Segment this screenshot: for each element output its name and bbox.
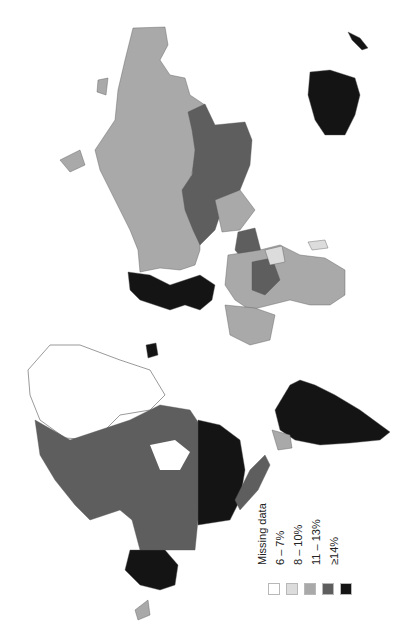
region-scandinavia [60, 150, 85, 172]
region-africa [225, 245, 345, 310]
region-madagascar [308, 240, 328, 250]
region-iceland [146, 343, 158, 358]
region-australia [308, 70, 360, 135]
legend-label-8-10: 8 – 10% [291, 525, 305, 565]
legend-swatch-11-13 [322, 583, 334, 595]
region-usa [198, 420, 245, 525]
region-europe [128, 272, 215, 310]
legend-label-11-13: 11 – 13% [309, 519, 323, 565]
region-kamchatka [135, 600, 150, 620]
region-uk-area [97, 78, 108, 95]
region-russia [95, 27, 205, 272]
legend-swatch-8-10 [304, 583, 316, 595]
legend-swatch-missing [268, 583, 280, 595]
legend-swatch-14-plus [340, 583, 352, 595]
legend-label-missing: Missing data [255, 503, 269, 565]
region-south-america [275, 380, 390, 445]
region-new-zealand [348, 32, 368, 50]
legend-label-6-7: 6 – 7% [273, 531, 287, 565]
legend: Missing data 6 – 7% 8 – 10% 11 – 13% ≥14… [268, 505, 368, 595]
legend-label-14-plus: ≥14% [327, 537, 341, 565]
legend-swatch-6-7 [286, 583, 298, 595]
region-alaska [125, 550, 178, 590]
region-southern-africa [225, 305, 275, 345]
